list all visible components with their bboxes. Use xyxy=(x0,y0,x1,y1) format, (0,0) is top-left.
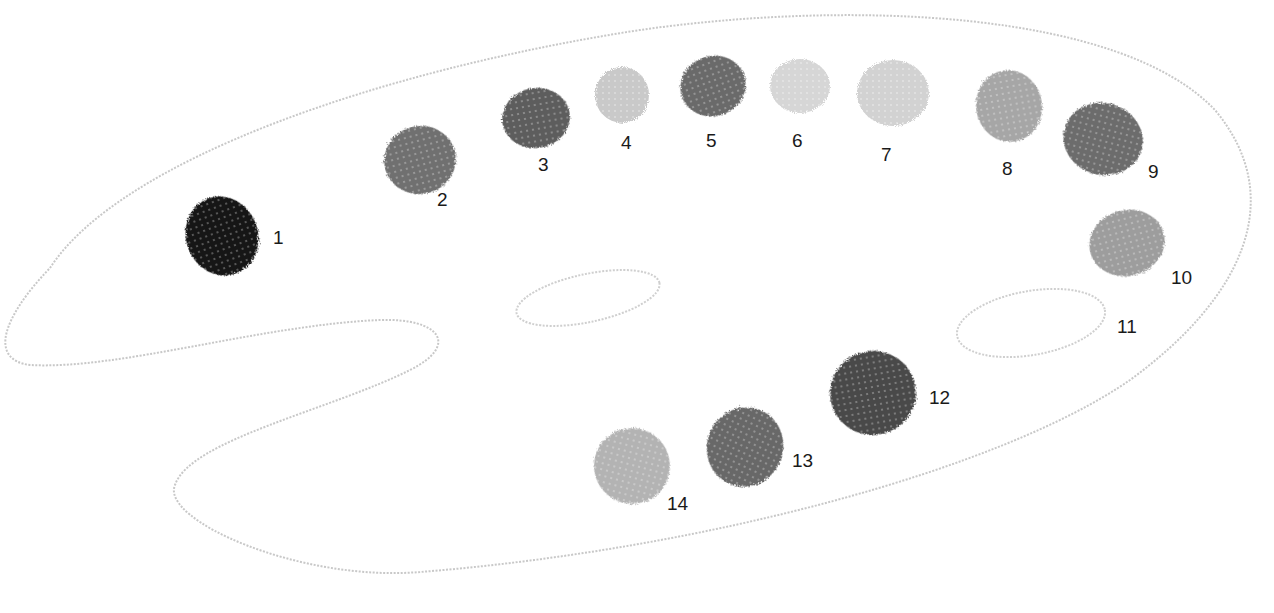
center-hole-outline xyxy=(512,259,665,336)
swatch-12 xyxy=(823,344,922,442)
swatch-label-12: 12 xyxy=(929,388,950,407)
swatch-6 xyxy=(770,59,830,113)
swatch-14 xyxy=(585,419,678,512)
swatch-label-4: 4 xyxy=(621,133,632,152)
swatch-label-14: 14 xyxy=(667,494,688,513)
swatch-5 xyxy=(672,47,755,126)
swatch-9 xyxy=(1055,94,1151,184)
swatches xyxy=(174,47,1172,513)
swatch-label-6: 6 xyxy=(792,131,803,150)
swatch-label-13: 13 xyxy=(792,451,813,470)
swatch-label-5: 5 xyxy=(706,131,717,150)
palette-illustration: 1234567891012131411 xyxy=(0,0,1274,613)
swatch-4 xyxy=(595,67,649,123)
swatch-label-1: 1 xyxy=(273,228,284,247)
swatch-label-2: 2 xyxy=(437,190,448,209)
swatch-label-7: 7 xyxy=(881,145,892,164)
swatch-label-8: 8 xyxy=(1002,159,1013,178)
swatch-label-10: 10 xyxy=(1171,268,1192,287)
swatch-label-3: 3 xyxy=(538,155,549,174)
swatch-label-11: 11 xyxy=(1117,317,1137,336)
swatch-13 xyxy=(694,395,797,500)
swatch-label-9: 9 xyxy=(1148,162,1159,181)
palette-canvas xyxy=(0,0,1274,613)
swatch-3 xyxy=(497,83,574,154)
swatch-10 xyxy=(1082,201,1172,284)
empty-well-11 xyxy=(952,278,1111,367)
swatch-1 xyxy=(174,186,269,286)
swatch-7 xyxy=(857,60,929,126)
swatch-8 xyxy=(970,65,1048,147)
swatch-2 xyxy=(376,118,463,202)
